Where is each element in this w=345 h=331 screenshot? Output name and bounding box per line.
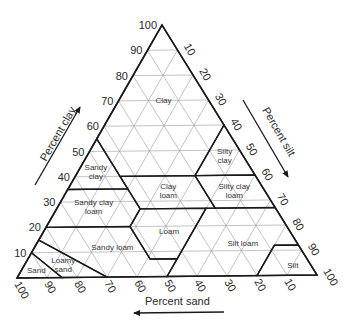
sand-tick: 30	[222, 277, 239, 294]
silt-tick: 70	[275, 191, 292, 208]
sand-tick: 60	[132, 278, 149, 295]
clay-tick: 50	[72, 146, 84, 158]
sand-axis-label: Percent sand	[145, 295, 210, 307]
region-label: clay	[89, 172, 103, 181]
sand-tick: 50	[162, 278, 179, 295]
clay-tick: 30	[43, 196, 55, 208]
region-label: loam	[85, 207, 103, 216]
silt-tick: 50	[244, 141, 261, 158]
triangle-outline	[17, 25, 317, 278]
clay-tick: 10	[14, 247, 26, 259]
silt-tick: 40	[228, 116, 245, 133]
region-label: Silty	[217, 147, 232, 156]
clay-tick: 60	[87, 120, 99, 132]
grid-line-clay	[133, 75, 193, 76]
silt-tick: 100	[321, 266, 341, 288]
clay-tick: 100	[139, 19, 157, 31]
region-label: Loam	[159, 227, 179, 236]
region-label: Sandy loam	[91, 243, 134, 252]
soil-texture-triangle: 1020304050607080901001020304050607080901…	[0, 0, 345, 331]
region-label: Clay	[160, 182, 176, 191]
region-label: Silt	[287, 261, 299, 270]
region-label: Sandy clay	[74, 198, 113, 207]
clay-tick: 80	[116, 70, 128, 82]
region-label: loam	[226, 191, 244, 200]
silt-tick: 90	[306, 241, 323, 258]
silt-tick: 80	[290, 216, 307, 233]
clay-tick: 90	[130, 44, 142, 56]
region-label: Sand	[27, 266, 46, 275]
sand-tick: 80	[72, 278, 89, 295]
grid-line-clay	[32, 250, 302, 253]
triangle-border	[17, 25, 317, 278]
sand-tick: 10	[282, 276, 299, 293]
clay-tick: 20	[29, 221, 41, 233]
ternary-plot: 1020304050607080901001020304050607080901…	[0, 0, 345, 331]
silt-axis-label: Percent silt	[260, 105, 298, 158]
region-label: Silty clay	[219, 182, 251, 191]
region-label: Sandy	[85, 163, 108, 172]
sand-axis-title: Percent sand	[134, 295, 224, 313]
region-label: Silt loam	[228, 239, 259, 248]
silt-tick: 30	[213, 91, 230, 108]
region-label: Loamy	[51, 256, 75, 265]
region-label: clay	[217, 156, 231, 165]
sand-tick: 40	[192, 277, 209, 294]
sand-arrow-icon	[134, 312, 224, 313]
sand-tick: 100	[12, 279, 32, 301]
region-label: Clay	[155, 96, 171, 105]
grid-lines	[32, 50, 302, 278]
clay-tick: 70	[101, 95, 113, 107]
sand-tick: 70	[102, 278, 119, 295]
texture-regions	[17, 25, 317, 278]
silt-tick: 60	[259, 166, 276, 183]
silt-tick: 10	[182, 41, 199, 58]
silt-tick: 20	[197, 66, 214, 83]
sand-tick: 90	[42, 279, 59, 296]
sand-tick: 20	[252, 277, 269, 294]
region-label: sand	[55, 265, 72, 274]
clay-tick: 40	[58, 171, 70, 183]
region-label: loam	[160, 191, 178, 200]
